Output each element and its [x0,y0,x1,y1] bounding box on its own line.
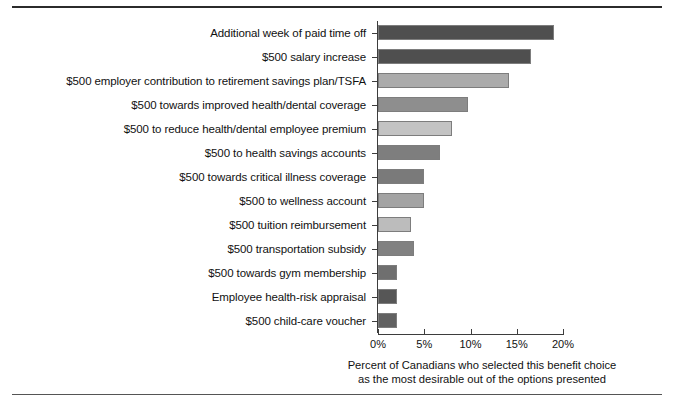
y-axis-tick [372,105,377,106]
x-axis-tick-label: 5% [404,338,444,350]
y-axis-tick [372,249,377,250]
bar [378,265,397,280]
clipped-title [12,0,662,1]
x-axis-tick-label: 0% [358,338,398,350]
x-axis-tick-label: 10% [451,338,491,350]
bar [378,49,531,64]
y-axis-tick [372,177,377,178]
x-axis-tick [563,329,564,335]
category-label: $500 towards critical illness coverage [179,165,366,189]
x-axis-tick [424,329,425,335]
bar [378,97,468,112]
bar [378,193,424,208]
y-axis-tick [372,57,377,58]
category-axis-labels: Additional week of paid time off$500 sal… [20,18,372,334]
category-label: Employee health-risk appraisal [212,285,366,309]
y-axis-tick [372,321,377,322]
category-label: $500 to reduce health/dental employee pr… [124,117,366,141]
bar [378,169,424,184]
y-axis-tick [372,201,377,202]
bar-series [378,18,578,334]
caption-line-2: as the most desirable out of the options… [337,372,627,386]
category-label: $500 towards improved health/dental cove… [131,93,366,117]
category-label: $500 salary increase [262,45,366,69]
x-axis-tick-label: 15% [497,338,537,350]
category-label: Additional week of paid time off [210,21,366,45]
category-label: $500 tuition reimbursement [229,213,366,237]
bar [378,25,554,40]
bottom-divider-rule [12,394,662,395]
x-axis-caption: Percent of Canadians who selected this b… [337,358,627,386]
y-axis-tick [372,225,377,226]
x-axis-tick-label: 20% [543,338,583,350]
category-label: $500 employer contribution to retirement… [66,69,366,93]
bar [378,121,452,136]
y-axis-tick [372,273,377,274]
bar [378,73,509,88]
x-axis-tick [517,329,518,335]
plot-area: Additional week of paid time off$500 sal… [0,18,674,334]
bar [378,241,414,256]
bar [378,145,440,160]
chart-figure: Additional week of paid time off$500 sal… [0,0,674,406]
y-axis-tick [372,297,377,298]
bar [378,217,411,232]
x-axis-tick [471,329,472,335]
top-divider-rule [12,6,662,8]
y-axis-tick [372,33,377,34]
bar [378,313,397,328]
x-axis-tick [378,329,379,335]
y-axis-tick [372,153,377,154]
caption-line-1: Percent of Canadians who selected this b… [337,358,627,372]
bar [378,289,397,304]
category-label: $500 child-care voucher [246,309,366,333]
category-label: $500 to wellness account [239,189,366,213]
y-axis-tick [372,129,377,130]
y-axis-tick [372,81,377,82]
category-label: $500 transportation subsidy [227,237,366,261]
category-label: $500 to health savings accounts [205,141,366,165]
category-label: $500 towards gym membership [208,261,366,285]
